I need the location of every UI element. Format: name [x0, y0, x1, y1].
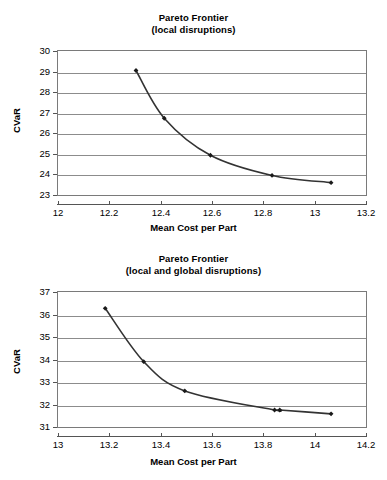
y-tick-label: 32 [17, 400, 50, 410]
data-point-marker [329, 180, 334, 185]
y-tick-label: 29 [17, 67, 50, 77]
y-tick-label: 35 [17, 332, 50, 342]
x-tick-mark [315, 201, 316, 205]
x-tick-label: 13 [295, 208, 335, 218]
series-layer [58, 292, 368, 429]
data-point-marker [329, 411, 334, 416]
x-tick-label: 12.2 [89, 208, 129, 218]
x-tick-mark [161, 433, 162, 437]
x-tick-mark [58, 201, 59, 205]
data-point-marker [182, 388, 187, 393]
x-tick-label: 12 [38, 208, 78, 218]
chart-title-line1: Pareto Frontier [0, 253, 387, 265]
series-line [136, 71, 331, 183]
x-tick-label: 13.8 [243, 440, 283, 450]
chart-title-line2: (local and global disruptions) [0, 265, 387, 277]
y-tick-mark [53, 292, 57, 293]
y-tick-label: 31 [17, 422, 50, 432]
chart-panel-local-disruptions: Pareto Frontier (local disruptions) CVaR… [0, 0, 387, 240]
chart-title-line2: (local disruptions) [0, 24, 387, 36]
x-tick-label: 13 [38, 440, 78, 450]
chart-title-0: Pareto Frontier (local disruptions) [0, 12, 387, 36]
y-tick-label: 23 [17, 190, 50, 200]
y-tick-mark [53, 92, 57, 93]
x-tick-mark [58, 433, 59, 437]
plot-area-1 [57, 291, 367, 428]
y-tick-mark [53, 154, 57, 155]
x-tick-mark [109, 201, 110, 205]
data-point-marker [272, 408, 277, 413]
x-tick-mark [212, 201, 213, 205]
chart-title-line1: Pareto Frontier [0, 12, 387, 24]
x-tick-label: 13.2 [89, 440, 129, 450]
chart-title-1: Pareto Frontier (local and global disrup… [0, 253, 387, 277]
y-tick-label: 33 [17, 377, 50, 387]
y-tick-mark [53, 133, 57, 134]
y-tick-label: 30 [17, 46, 50, 56]
y-tick-mark [53, 72, 57, 73]
x-tick-mark [161, 201, 162, 205]
y-tick-mark [53, 337, 57, 338]
x-tick-mark [366, 433, 367, 437]
series-layer [58, 51, 368, 197]
y-tick-label: 24 [17, 169, 50, 179]
y-tick-mark [53, 195, 57, 196]
y-tick-mark [53, 382, 57, 383]
y-tick-label: 36 [17, 310, 50, 320]
series-line [105, 308, 331, 414]
y-tick-label: 28 [17, 87, 50, 97]
x-tick-label: 13.6 [192, 440, 232, 450]
x-tick-label: 14 [295, 440, 335, 450]
x-tick-label: 14.2 [346, 440, 386, 450]
y-tick-mark [53, 315, 57, 316]
y-tick-label: 26 [17, 128, 50, 138]
x-tick-mark [366, 201, 367, 205]
y-tick-label: 27 [17, 108, 50, 118]
chart-panel-local-global-disruptions: Pareto Frontier (local and global disrup… [0, 240, 387, 480]
x-axis-title-0: Mean Cost per Part [0, 222, 387, 233]
x-tick-mark [109, 433, 110, 437]
y-tick-mark [53, 360, 57, 361]
x-tick-label: 12.6 [192, 208, 232, 218]
x-tick-mark [212, 433, 213, 437]
y-tick-label: 25 [17, 149, 50, 159]
x-tick-mark [315, 433, 316, 437]
y-tick-mark [53, 427, 57, 428]
x-tick-label: 12.8 [243, 208, 283, 218]
x-tick-label: 13.4 [141, 440, 181, 450]
y-tick-label: 34 [17, 355, 50, 365]
x-tick-mark [263, 201, 264, 205]
y-tick-mark [53, 51, 57, 52]
x-axis-title-1: Mean Cost per Part [0, 456, 387, 467]
y-tick-label: 37 [17, 287, 50, 297]
y-tick-mark [53, 113, 57, 114]
y-tick-mark [53, 174, 57, 175]
data-point-marker [270, 173, 275, 178]
plot-area-0 [57, 50, 367, 196]
x-tick-label: 13.2 [346, 208, 386, 218]
x-tick-label: 12.4 [141, 208, 181, 218]
y-tick-mark [53, 405, 57, 406]
x-tick-mark [263, 433, 264, 437]
